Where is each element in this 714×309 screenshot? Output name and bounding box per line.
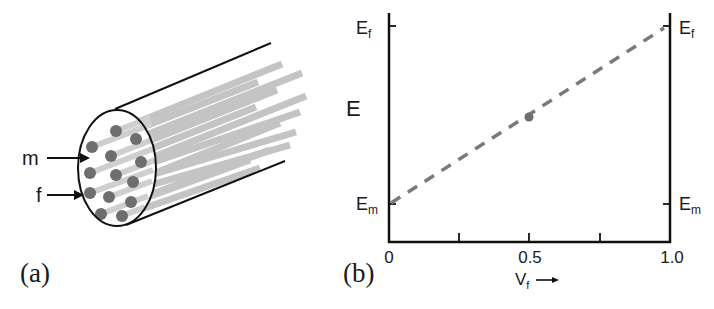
right-tick-ef: Ef — [679, 18, 695, 41]
matrix-label: m — [22, 147, 39, 169]
right-tick-em: Em — [679, 194, 701, 217]
fiber-arrow-icon — [47, 190, 84, 200]
panel-a-label: (a) — [20, 258, 50, 288]
y-axis-label: E — [346, 96, 361, 121]
left-tick-ef: Ef — [356, 18, 372, 41]
fiber-label: f — [36, 184, 42, 206]
panel-b-label: (b) — [343, 258, 374, 288]
composite-figure: m f (a) Ef Em Ef Em E — [0, 0, 714, 309]
left-tick-em: Em — [356, 194, 378, 217]
x-tick-0: 0 — [384, 248, 393, 267]
data-point — [525, 113, 534, 122]
x-axis-arrow-icon — [536, 277, 559, 283]
x-axis-label: Vf — [515, 270, 530, 291]
panel-a-fiber-composite: m f (a) — [20, 43, 306, 288]
panel-b-modulus-chart: Ef Em Ef Em E 0 0.5 1.0 Vf (b) — [343, 13, 701, 291]
x-tick-0-5: 0.5 — [518, 248, 542, 267]
x-tick-1-0: 1.0 — [660, 248, 684, 267]
